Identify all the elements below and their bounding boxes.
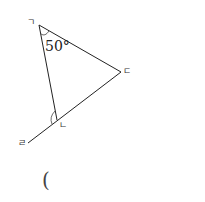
exterior-angle-arc [51,111,55,124]
answer-paren: ( [42,170,50,190]
vertex-label-bottom: ㄴ [59,121,67,130]
vertex-label-extension: ㄹ [18,139,26,148]
side-right-extension [28,72,121,143]
angle-arc-top [41,31,49,35]
angle-label: 50° [45,39,70,53]
vertex-label-top: ㄱ [27,18,35,27]
vertex-label-right: ㄷ [123,67,131,76]
triangle-diagram [0,0,205,202]
